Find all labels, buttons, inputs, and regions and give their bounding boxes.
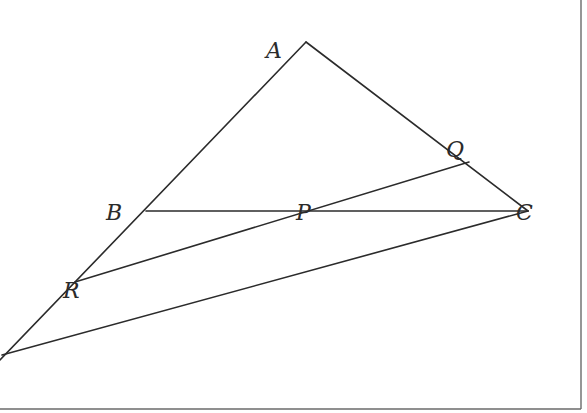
label-R: R	[62, 278, 80, 303]
geometry-diagram: A B C P Q R	[0, 0, 587, 413]
label-A: A	[264, 38, 282, 63]
label-Q: Q	[446, 137, 464, 162]
label-B: B	[105, 200, 122, 225]
line-RQ	[75, 162, 469, 282]
line-OA	[0, 42, 306, 360]
label-P: P	[295, 200, 312, 225]
label-C: C	[516, 200, 533, 225]
line-OC	[2, 211, 528, 355]
line-AC	[306, 42, 528, 211]
